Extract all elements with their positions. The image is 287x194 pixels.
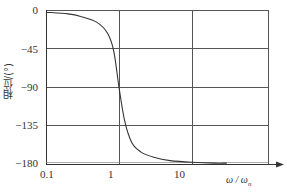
x-tick-1: 1 (108, 169, 114, 180)
y-tick-minus45: −45 (4, 44, 38, 55)
x-axis-label: ω / ωn (226, 174, 251, 188)
x-axis-label-sub: n (248, 180, 252, 188)
x-tick-0-1: 0.1 (40, 169, 54, 180)
y-tick-0: 0 (4, 5, 38, 16)
x-axis-label-main: ω / ω (226, 174, 248, 185)
phase-chart (0, 0, 287, 194)
x-tick-10: 10 (174, 169, 185, 180)
x-axis-arrow-icon (276, 162, 284, 168)
y-tick-minus135: −135 (4, 120, 38, 131)
horizontal-gridlines (46, 11, 269, 126)
y-tick-minus180: −180 (4, 158, 38, 169)
y-axis-label: 相位/(°) (3, 63, 15, 99)
